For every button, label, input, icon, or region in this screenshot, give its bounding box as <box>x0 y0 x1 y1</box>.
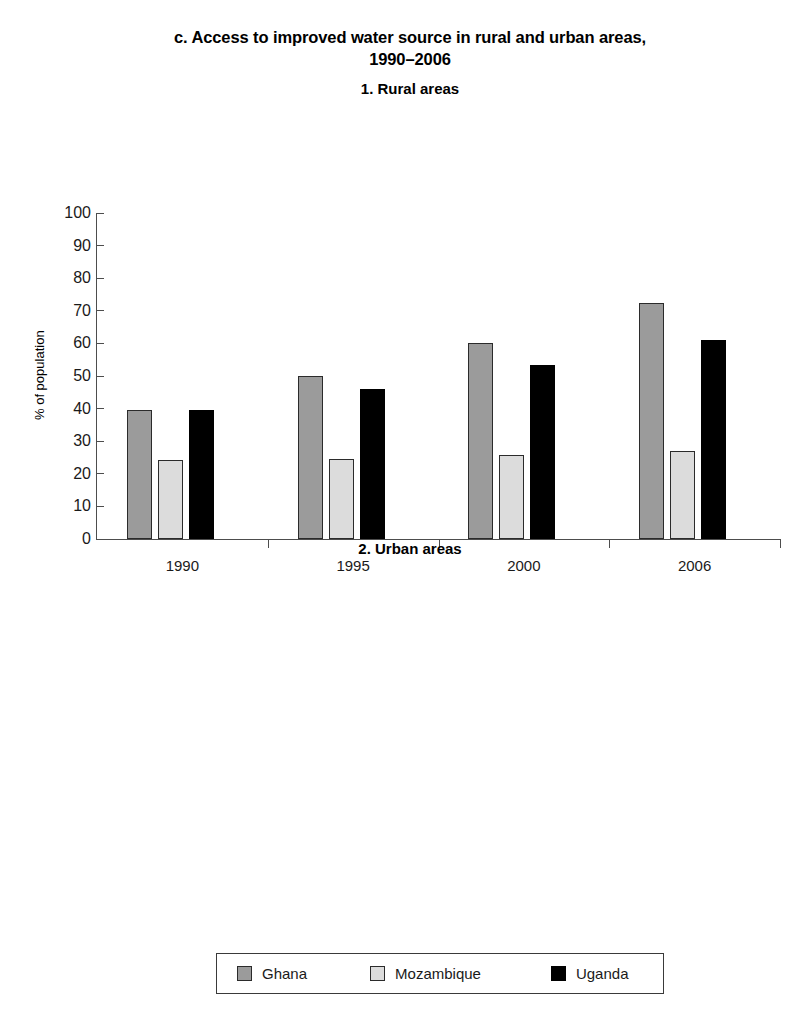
y-axis-tick-label: 20 <box>73 465 97 481</box>
bar-rural-ghana-1995 <box>298 376 323 539</box>
y-axis-tick-label: 100 <box>64 205 97 221</box>
bar-rural-mozambique-1995 <box>329 459 354 539</box>
y-axis-tick-mark <box>97 539 104 540</box>
legend-item-uganda: Uganda <box>551 965 629 982</box>
y-axis-tick-label: 70 <box>73 302 97 318</box>
legend-label-ghana: Ghana <box>262 965 307 982</box>
y-axis-tick-mark <box>97 473 104 474</box>
y-axis-tick-label: 40 <box>73 400 97 416</box>
legend-swatch-mozambique <box>370 966 385 981</box>
panel-title-rural: 1. Rural areas <box>110 80 710 97</box>
bar-rural-uganda-1990 <box>189 410 214 539</box>
y-axis-tick-mark <box>97 245 104 246</box>
figure-title-line2: 1990–2006 <box>369 50 451 68</box>
bar-rural-ghana-1990 <box>127 410 152 539</box>
legend-label-mozambique: Mozambique <box>395 965 481 982</box>
legend-swatch-ghana <box>237 966 252 981</box>
figure-page: c. Access to improved water source in ru… <box>0 0 808 1012</box>
y-axis-tick-label: 0 <box>82 531 97 547</box>
y-axis-tick-label: 90 <box>73 237 97 253</box>
figure-title-line1: c. Access to improved water source in ru… <box>174 28 646 46</box>
legend-item-ghana: Ghana <box>237 965 307 982</box>
y-axis-tick-label: 80 <box>73 270 97 286</box>
bar-rural-uganda-2006 <box>701 340 726 539</box>
bar-rural-uganda-1995 <box>360 389 385 539</box>
y-axis-tick-label: 10 <box>73 498 97 514</box>
y-axis-tick-mark <box>97 310 104 311</box>
legend-swatch-uganda <box>551 966 566 981</box>
y-axis-tick-mark <box>97 506 104 507</box>
figure-title: c. Access to improved water source in ru… <box>110 26 710 70</box>
legend-label-uganda: Uganda <box>576 965 629 982</box>
y-axis-label-rural: % of population <box>32 330 47 420</box>
y-axis-tick-label: 50 <box>73 368 97 384</box>
y-axis-tick-mark <box>97 376 104 377</box>
chart-legend: Ghana Mozambique Uganda <box>216 953 664 994</box>
bar-rural-mozambique-2000 <box>499 455 524 539</box>
bar-rural-uganda-2000 <box>530 365 555 539</box>
y-axis-tick-label: 60 <box>73 335 97 351</box>
chart-panel-rural: % of population 010203040506070809010019… <box>0 100 808 480</box>
y-axis-tick-mark <box>97 408 104 409</box>
bar-rural-mozambique-1990 <box>158 460 183 539</box>
bar-rural-ghana-2000 <box>468 343 493 539</box>
plot-area-rural: 01020304050607080901001990199520002006 <box>96 213 780 540</box>
y-axis-tick-mark <box>97 343 104 344</box>
y-axis-tick-label: 30 <box>73 433 97 449</box>
y-axis-tick-mark <box>97 213 104 214</box>
chart-panel-urban: % of population 010203040506070809010019… <box>0 552 808 932</box>
bar-rural-mozambique-2006 <box>670 451 695 539</box>
y-axis-tick-mark <box>97 441 104 442</box>
legend-item-mozambique: Mozambique <box>370 965 481 982</box>
y-axis-tick-mark <box>97 278 104 279</box>
x-axis-tick-mark-end <box>780 539 781 548</box>
bar-rural-ghana-2006 <box>639 303 664 539</box>
